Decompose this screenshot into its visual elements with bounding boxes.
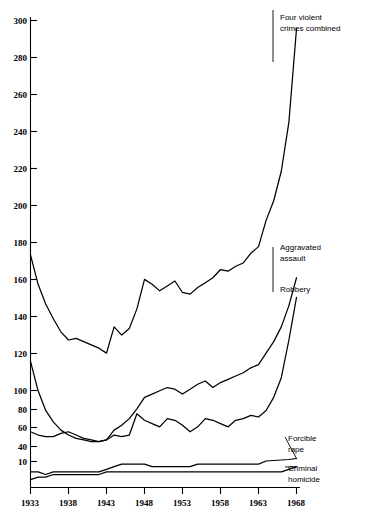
y-tick-label: 100 <box>14 386 28 396</box>
annotation-criminal-homicide-line1: Criminal <box>288 464 318 473</box>
series-line-robbery <box>31 297 297 441</box>
y-tick-label: 260 <box>14 90 28 100</box>
x-tick-label: 1968 <box>287 498 306 508</box>
series-line-four-violent-crimes-combined <box>31 29 297 353</box>
y-tick-label: 80 <box>18 405 28 415</box>
series-line-criminal-homicide <box>31 467 297 480</box>
annotation-aggravated-assault-line1: Aggravated <box>280 243 321 252</box>
x-tick-label: 1963 <box>249 498 268 508</box>
crime-rate-line-chart: 300 280 260 240 220 200 180 160 140 120 … <box>0 0 365 519</box>
y-tick-label: 200 <box>14 201 28 211</box>
x-axis-tick-labels: 1933 1938 1943 1948 1953 1958 1963 1968 <box>21 498 306 508</box>
annotation-forcible-rape-line2: rape <box>288 445 305 454</box>
y-tick-label: 280 <box>14 53 28 63</box>
x-tick-label: 1938 <box>59 498 78 508</box>
annotation-aggravated-assault-line2: assault <box>280 254 306 263</box>
y-tick-label: 140 <box>14 312 28 322</box>
y-tick-label: 300 <box>14 16 28 26</box>
x-tick-label: 1933 <box>21 498 40 508</box>
x-axis-ticks <box>31 488 297 495</box>
y-axis-ticks <box>31 21 38 462</box>
x-tick-label: 1948 <box>135 498 154 508</box>
annotation-four-violent-crimes-line1: Four violent <box>280 13 323 22</box>
y-tick-label: 40 <box>18 442 28 452</box>
annotation-forcible-rape-line1: Forcible <box>288 434 317 443</box>
y-tick-label: 160 <box>14 275 28 285</box>
x-tick-label: 1953 <box>173 498 192 508</box>
series-group <box>31 29 297 480</box>
annotation-robbery: Robbery <box>280 285 310 294</box>
y-tick-label: 220 <box>14 164 28 174</box>
y-axis-tick-labels: 300 280 260 240 220 200 180 160 140 120 … <box>14 16 28 467</box>
y-tick-label: 120 <box>14 349 28 359</box>
y-tick-label: 240 <box>14 127 28 137</box>
y-tick-label: 180 <box>14 238 28 248</box>
y-tick-label: 60 <box>18 423 28 433</box>
x-tick-label: 1943 <box>97 498 116 508</box>
annotation-labels: Four violent crimes combined Aggravated … <box>280 13 340 484</box>
annotation-criminal-homicide-line2: homicide <box>288 475 321 484</box>
chart-canvas: 300 280 260 240 220 200 180 160 140 120 … <box>0 0 365 519</box>
y-tick-label: 10 <box>18 457 28 467</box>
x-tick-label: 1958 <box>211 498 230 508</box>
annotation-four-violent-crimes-line2: crimes combined <box>280 24 340 33</box>
